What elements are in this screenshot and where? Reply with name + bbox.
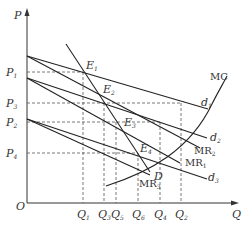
point-e2-label: E2	[102, 83, 115, 96]
d1-curve	[27, 56, 208, 109]
mc-curve	[106, 76, 227, 186]
point-e4-label: E4	[139, 142, 152, 155]
mr2-label: MR2	[194, 145, 216, 157]
price-tick-p4: P4	[5, 147, 17, 160]
qty-tick-q4: Q4	[154, 208, 167, 221]
price-tick-p2: P2	[5, 116, 17, 129]
price-tick-p3: P3	[5, 97, 17, 110]
qty-tick-q3: Q3	[98, 208, 111, 221]
economics-diagram: P Q O MC d1	[0, 0, 250, 232]
qty-tick-q6: Q6	[132, 208, 145, 221]
d1-label: d1	[201, 96, 212, 109]
mr1-label: MR1	[185, 157, 207, 169]
point-e1-label: E1	[85, 59, 98, 72]
d2-label: d2	[210, 131, 221, 144]
x-axis-arrow-icon	[231, 201, 239, 206]
mr2-curve-upper	[27, 56, 200, 148]
mc-label: MC	[210, 71, 228, 82]
qty-tick-q5: Q5	[111, 208, 124, 221]
y-axis-arrow-icon	[25, 8, 30, 16]
qty-tick-q1: Q1	[77, 208, 90, 221]
x-axis-label: Q	[232, 208, 241, 221]
point-e3-label: E3	[123, 116, 136, 129]
qty-tick-q2: Q2	[175, 208, 188, 221]
y-axis-label: P	[13, 9, 22, 22]
d3-label: d3	[208, 171, 219, 184]
price-tick-p1: P1	[5, 66, 17, 79]
origin-label: O	[16, 200, 25, 213]
D-label: D	[153, 170, 163, 183]
d2-curve	[27, 78, 207, 138]
